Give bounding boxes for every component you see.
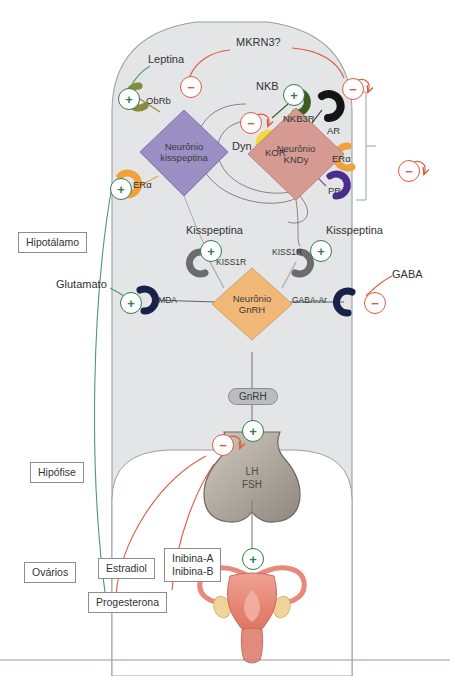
sign-plus-gnrh-pituitary[interactable]: +	[242, 420, 264, 442]
gnrh-neuron-label: Neurônio GnRH	[214, 294, 290, 316]
sign-plus-kiss-right[interactable]: +	[310, 240, 332, 262]
sign-minus-gaba[interactable]: −	[364, 292, 386, 314]
region-label-hipofise: Hipófise	[30, 462, 84, 483]
label-gaba: GABA	[392, 268, 423, 281]
label-nmda: NMDA	[152, 296, 177, 306]
region-label-ovarios: Ovários	[24, 562, 76, 583]
label-kisspeptina-right: Kisspeptina	[326, 224, 383, 237]
sign-plus-era-kiss[interactable]: +	[110, 178, 132, 200]
label-nkb3r: NKB3R	[283, 114, 315, 125]
label-kor: KOR	[265, 148, 286, 159]
region-label-hipotalamo: Hipotálamo	[18, 232, 87, 253]
ovary-output-inibina: Inibina-A Inibina-B	[164, 548, 221, 582]
label-obrb: ObRb	[146, 96, 171, 107]
label-era-kiss: ERα	[133, 180, 152, 191]
label-pr: PR	[328, 186, 341, 197]
gnrh-pill: GnRH	[228, 388, 278, 405]
kisspeptin-neuron-line2: kisspeptina	[146, 153, 222, 164]
hormone-fsh: FSH	[224, 479, 280, 492]
inibina-a: Inibina-A	[172, 552, 213, 565]
label-era-kndy: ERα	[332, 154, 351, 165]
sign-minus-mkrn3-kndy[interactable]: −	[342, 78, 364, 100]
sign-minus-pituitary-feedback[interactable]: −	[212, 434, 234, 456]
ovary-output-estradiol: Estradiol	[98, 558, 155, 579]
label-gaba-ar: GABA-Ar	[292, 296, 327, 306]
diagram-canvas: + + − + − − − + + + − + − + Neurônio kis…	[0, 0, 450, 676]
label-dyn: Dyn	[232, 140, 252, 153]
label-ar: AR	[327, 126, 340, 137]
sign-plus-ovary[interactable]: +	[242, 548, 264, 570]
label-kiss1r-right: KISS1R	[272, 248, 302, 258]
kisspeptin-neuron-label: Neurônio kisspeptina	[146, 142, 222, 164]
pituitary-hormones: LH FSH	[224, 466, 280, 491]
sign-plus-glutamato[interactable]: +	[120, 292, 142, 314]
label-leptina: Leptina	[148, 53, 184, 66]
label-kiss1r-left: KISS1R	[216, 258, 246, 268]
label-nkb: NKB	[256, 80, 279, 93]
sign-plus-leptina[interactable]: +	[118, 88, 140, 110]
inibina-b: Inibina-B	[172, 565, 213, 578]
sign-minus-era-kndy[interactable]: −	[398, 160, 420, 182]
sign-minus-dyn[interactable]: −	[240, 112, 262, 134]
label-kisspeptina-left: Kisspeptina	[186, 224, 243, 237]
ovary-output-progesterona: Progesterona	[88, 592, 167, 613]
label-glutamato: Glutamato	[56, 278, 107, 291]
sign-minus-mkrn3-kiss[interactable]: −	[180, 76, 202, 98]
gnrh-neuron-line2: GnRH	[214, 305, 290, 316]
sign-plus-nkb[interactable]: +	[283, 84, 305, 106]
cervix-vagina	[241, 628, 262, 663]
hormone-lh: LH	[224, 466, 280, 479]
label-mkrn3: MKRN3?	[236, 36, 281, 49]
